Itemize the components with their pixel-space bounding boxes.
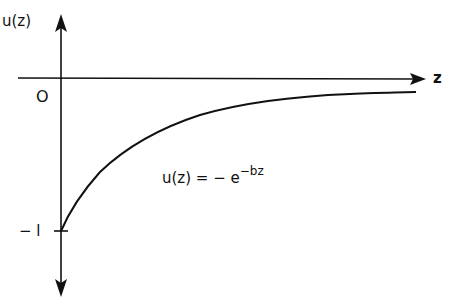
equation-label: u(z) = − e−bz <box>162 171 264 186</box>
y-axis-label: u(z) <box>2 14 31 29</box>
diagram-svg <box>0 0 451 304</box>
x-axis <box>18 78 414 79</box>
y-tick-label: − l <box>19 224 41 239</box>
exponential-curve <box>61 92 416 231</box>
diagram-canvas: u(z) z O − l u(z) = − e−bz <box>0 0 451 304</box>
equation-exponent: −bz <box>240 164 264 178</box>
origin-label: O <box>36 89 49 105</box>
equation-base: u(z) = − e <box>162 169 240 187</box>
x-axis-label: z <box>433 71 442 86</box>
